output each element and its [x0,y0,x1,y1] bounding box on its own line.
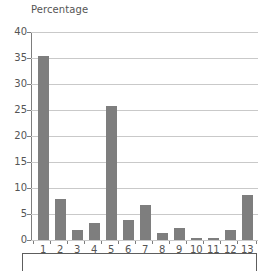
bar [191,238,202,240]
y-axis-tick [27,162,31,163]
y-axis-tick-label: 30 [3,79,27,89]
gridline [31,32,258,33]
y-axis-tick [27,84,31,85]
x-axis-tick [33,241,34,244]
y-axis-tick [27,240,31,241]
plot-area [31,32,258,240]
y-axis-tick-label: 20 [3,131,27,141]
caption-box [22,253,257,271]
y-axis-tick [27,188,31,189]
bar [38,56,49,240]
bar [106,106,117,240]
x-axis-tick [135,241,136,244]
bar [140,205,151,240]
y-axis-tick-label: 35 [3,53,27,63]
gridline [31,240,258,241]
y-axis-tick-label: 25 [3,105,27,115]
x-axis-tick [186,241,187,244]
bar [174,228,185,240]
bar [225,230,236,240]
y-axis-tick-label: 10 [3,183,27,193]
x-axis-tick [220,241,221,244]
gridline [31,84,258,85]
y-axis-tick [27,214,31,215]
y-axis-tick [27,110,31,111]
gridline [31,188,258,189]
y-axis-tick [27,136,31,137]
y-axis-tick-label: 5 [3,209,27,219]
y-axis-tick [27,32,31,33]
bar [208,238,219,240]
bar [89,223,100,240]
y-axis-tick-label: 40 [3,27,27,37]
x-axis-tick [152,241,153,244]
bar [72,230,83,240]
x-axis-tick [237,241,238,244]
x-axis-tick [50,241,51,244]
x-axis-tick [67,241,68,244]
gridline [31,162,258,163]
x-axis-tick [203,241,204,244]
x-axis-tick [101,241,102,244]
y-axis-tick-label: 15 [3,157,27,167]
bar [157,233,168,240]
y-axis-tick [27,58,31,59]
bar [55,199,66,240]
gridline [31,110,258,111]
bar [242,195,253,240]
x-axis-tick [84,241,85,244]
bar [123,220,134,240]
y-axis-title: Percentage [31,4,88,16]
x-axis-tick [256,241,257,244]
gridline [31,136,258,137]
y-axis-tick-labels: 0510152025303540 [0,0,27,264]
x-axis-tick [169,241,170,244]
gridline [31,58,258,59]
x-axis-tick [118,241,119,244]
